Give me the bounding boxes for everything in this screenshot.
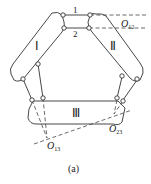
body-III-label: Ⅲ (72, 106, 80, 120)
pivot-joint (88, 13, 92, 17)
pivot-joint (120, 74, 124, 78)
pivot-joint (115, 96, 119, 100)
body-I-label: Ⅰ (35, 39, 39, 53)
link-I-III-b (38, 64, 43, 98)
point-O12-label: O12 (121, 18, 134, 30)
mechanism-diagram: 1 2 Ⅰ Ⅱ Ⅲ O12 O13 O23 (a) (0, 0, 151, 184)
pivot-joint (61, 13, 65, 17)
pivot-joint (41, 96, 45, 100)
pivot-joint (36, 62, 40, 66)
pivot-joint (87, 26, 91, 30)
pivot-joint (121, 99, 125, 103)
link-I-III-a (23, 79, 32, 100)
link-1-label: 1 (73, 5, 78, 15)
pivot-joint (135, 77, 139, 81)
link-II-III-b (123, 80, 137, 100)
dashed-line-O13-O23 (34, 110, 132, 144)
link-2-label: 2 (73, 29, 78, 39)
pivot-joint (30, 98, 34, 102)
pivot-joint (21, 77, 25, 81)
point-O23-label: O23 (109, 123, 122, 135)
link-II-III-a (117, 77, 122, 98)
figure-caption: (a) (68, 163, 79, 175)
pivot-joint (62, 26, 66, 30)
point-O13-label: O13 (47, 140, 60, 152)
body-II-label: Ⅱ (110, 39, 116, 53)
